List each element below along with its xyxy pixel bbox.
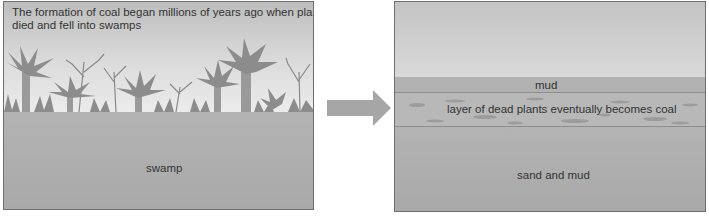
- swamp-label: swamp: [146, 162, 182, 175]
- arrow-right-icon: [325, 88, 405, 128]
- swamp-panel: The formation of coal began millions of …: [3, 1, 314, 210]
- sand-and-mud-label: sand and mud: [517, 169, 590, 182]
- caption-line-1: The formation of coal began millions of …: [12, 6, 314, 19]
- swamp-ground: [4, 112, 313, 210]
- mud-label: mud: [535, 79, 557, 92]
- burial-panel: mud layer of dead plants eventually beco…: [394, 1, 706, 212]
- dead-plant-layer-label: layer of dead plants eventually becomes …: [447, 103, 677, 116]
- caption-line-2: died and fell into swamps: [12, 19, 141, 32]
